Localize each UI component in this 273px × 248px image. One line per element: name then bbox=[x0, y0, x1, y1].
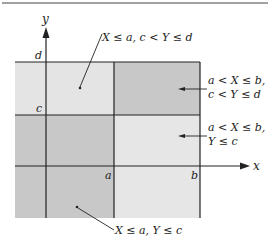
region-top-left bbox=[15, 62, 114, 115]
y-axis-arrow-icon bbox=[43, 27, 50, 38]
region-diagram: y x d c a b X ≤ a, c < Y ≤ d a < X ≤ b, … bbox=[0, 0, 273, 248]
region-top-right-label-line1: a < X ≤ b, bbox=[208, 74, 265, 87]
region-top-right-label-line2: c < Y ≤ d bbox=[208, 88, 261, 101]
region-top-left-label: X ≤ a, c < Y ≤ d bbox=[101, 31, 192, 44]
tick-d: d bbox=[35, 49, 42, 62]
y-axis-label: y bbox=[41, 12, 49, 26]
x-axis-arrow-icon bbox=[240, 163, 250, 170]
diagram-canvas: y x d c a b X ≤ a, c < Y ≤ d a < X ≤ b, … bbox=[0, 0, 273, 248]
tick-b: b bbox=[191, 169, 198, 182]
region-middle-right-label-line1: a < X ≤ b, bbox=[208, 121, 265, 134]
tick-a: a bbox=[105, 169, 112, 182]
region-middle-right-label-line2: Y ≤ c bbox=[208, 135, 238, 148]
region-bottom-left-label: X ≤ a, Y ≤ c bbox=[114, 224, 182, 237]
leader-top-left-dot-icon bbox=[79, 87, 82, 90]
x-axis-label: x bbox=[253, 159, 260, 173]
region-top-right bbox=[114, 62, 200, 115]
tick-c: c bbox=[36, 102, 42, 115]
leader-bottom-left-dot-icon bbox=[76, 206, 79, 209]
